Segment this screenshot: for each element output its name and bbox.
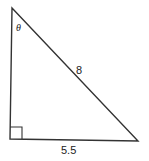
base-label: 5.5 xyxy=(61,144,76,156)
triangle-diagram: θ 8 5.5 xyxy=(0,0,149,161)
right-angle-marker xyxy=(10,127,22,139)
angle-theta-label: θ xyxy=(16,22,21,33)
right-triangle xyxy=(10,8,138,141)
hypotenuse-label: 8 xyxy=(76,64,82,76)
